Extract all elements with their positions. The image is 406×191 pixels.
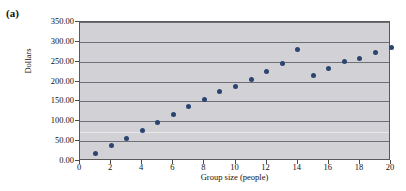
data-point bbox=[342, 59, 347, 64]
y-tick-mark bbox=[75, 81, 79, 82]
y-tick-label: 50.00 bbox=[30, 136, 74, 145]
y-tick-label: 350.00 bbox=[30, 17, 74, 26]
y-tick-mark bbox=[75, 61, 79, 62]
panel-label: (a) bbox=[6, 7, 19, 19]
gridline-faint bbox=[80, 132, 389, 133]
x-tick-mark bbox=[110, 160, 111, 164]
y-tick-mark bbox=[75, 41, 79, 42]
gridline bbox=[80, 101, 389, 102]
data-point bbox=[186, 104, 191, 109]
y-tick-label: 150.00 bbox=[30, 96, 74, 105]
data-point bbox=[233, 84, 238, 89]
chart-figure: (a) Dollars 0.0050.00100.00150.00200.002… bbox=[0, 0, 406, 191]
x-tick-mark bbox=[235, 160, 236, 164]
data-point bbox=[311, 73, 316, 78]
data-point bbox=[249, 77, 254, 82]
x-tick-mark bbox=[297, 160, 298, 164]
y-tick-label: 100.00 bbox=[30, 116, 74, 125]
y-tick-mark bbox=[75, 140, 79, 141]
data-point bbox=[109, 143, 114, 148]
data-point bbox=[140, 128, 145, 133]
x-tick-mark bbox=[203, 160, 204, 164]
x-tick-mark bbox=[266, 160, 267, 164]
y-tick-mark bbox=[75, 120, 79, 121]
y-tick-mark bbox=[75, 21, 79, 22]
data-point bbox=[202, 97, 207, 102]
data-point bbox=[124, 136, 129, 141]
y-tick-label: 200.00 bbox=[30, 77, 74, 86]
data-point bbox=[373, 50, 378, 55]
data-point bbox=[155, 120, 160, 125]
plot-area bbox=[79, 21, 390, 160]
y-tick-label: 250.00 bbox=[30, 57, 74, 66]
x-tick-mark bbox=[390, 160, 391, 164]
data-point bbox=[295, 47, 300, 52]
data-point bbox=[326, 66, 331, 71]
x-tick-mark bbox=[172, 160, 173, 164]
data-point bbox=[264, 69, 269, 74]
gridline bbox=[80, 42, 389, 43]
x-axis-title: Group size (people) bbox=[79, 172, 390, 182]
x-tick-mark bbox=[359, 160, 360, 164]
x-tick-mark bbox=[79, 160, 80, 164]
data-point bbox=[389, 45, 394, 50]
data-point bbox=[357, 56, 362, 61]
gridline bbox=[80, 141, 389, 142]
data-point bbox=[280, 61, 285, 66]
gridline bbox=[80, 82, 389, 83]
x-tick-mark bbox=[141, 160, 142, 164]
data-point bbox=[217, 89, 222, 94]
x-tick-mark bbox=[328, 160, 329, 164]
y-tick-mark bbox=[75, 100, 79, 101]
data-point bbox=[171, 112, 176, 117]
gridline bbox=[80, 121, 389, 122]
data-point bbox=[93, 151, 98, 156]
y-tick-label: 300.00 bbox=[30, 37, 74, 46]
gridline bbox=[80, 22, 389, 23]
